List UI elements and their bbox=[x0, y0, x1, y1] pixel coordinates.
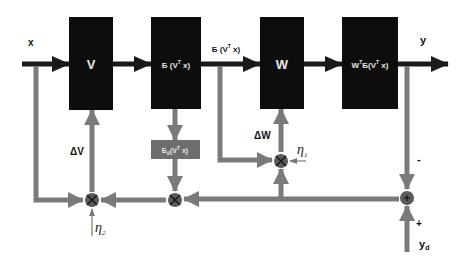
block-v-label: V bbox=[87, 57, 96, 72]
block-w-label: W bbox=[276, 57, 289, 72]
input-label: x bbox=[28, 37, 34, 48]
desired-output-label: yd bbox=[419, 238, 429, 251]
block-activation-label: Б (VT x) bbox=[162, 59, 191, 70]
plus-sign: + bbox=[416, 218, 422, 229]
eta2-label: η2 bbox=[95, 220, 106, 237]
summing-junction bbox=[400, 191, 414, 205]
minus-sign: - bbox=[417, 153, 421, 165]
neural-network-block-diagram: V Б (VT x) W WTБ(VT x) Бd(VT x) x y Б (V… bbox=[0, 0, 474, 268]
multiplier-v bbox=[85, 193, 99, 207]
block-output-label: WTБ(VT x) bbox=[352, 59, 389, 70]
hidden-output-label: Б (VT x) bbox=[212, 43, 241, 54]
multiplier-w bbox=[274, 154, 288, 168]
delta-w-label: ΔW bbox=[254, 130, 271, 141]
delta-v-label: ΔV bbox=[70, 146, 84, 157]
multiplier-mid bbox=[168, 193, 182, 207]
output-label: y bbox=[420, 34, 427, 46]
eta1-label: η1 bbox=[297, 142, 307, 159]
